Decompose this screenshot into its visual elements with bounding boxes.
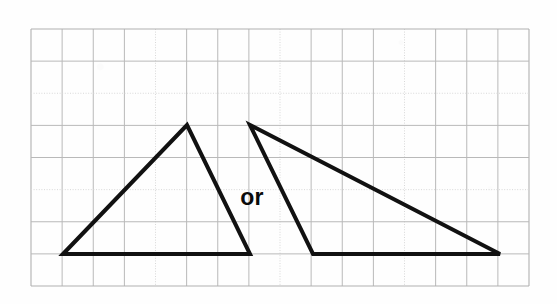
page-background: [0, 0, 557, 304]
figure-canvas: or: [0, 0, 557, 304]
triangle-comparison-figure: or: [0, 0, 557, 304]
or-label: or: [240, 184, 263, 210]
